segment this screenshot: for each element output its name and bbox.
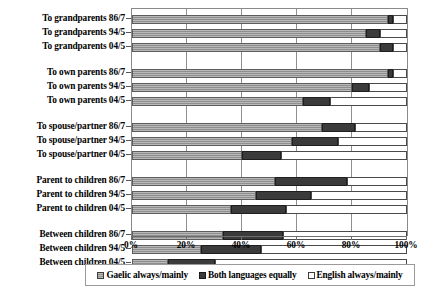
bar-segment-english bbox=[380, 29, 408, 38]
x-tick-label: 60% bbox=[287, 240, 306, 250]
bar-row bbox=[132, 97, 407, 106]
bar-segment-both bbox=[242, 151, 281, 160]
bar-segment-english bbox=[286, 205, 407, 214]
bar-segment-both bbox=[231, 205, 286, 214]
bar-segment-both bbox=[352, 83, 369, 92]
category-tick bbox=[126, 262, 131, 263]
bar-segment-english bbox=[338, 137, 407, 146]
bar-segment-both bbox=[322, 123, 355, 132]
bar-segment-gaelic bbox=[132, 137, 292, 146]
category-label: Parent to children 86/7 bbox=[36, 175, 125, 186]
bar-row bbox=[132, 123, 407, 132]
legend-swatch-english-icon bbox=[308, 272, 315, 279]
x-tick-label: 40% bbox=[232, 240, 251, 250]
bar-segment-english bbox=[347, 177, 408, 186]
category-tick bbox=[126, 46, 131, 47]
legend-label: Gaelic always/mainly bbox=[106, 270, 187, 280]
x-tick-label: 0% bbox=[124, 240, 138, 250]
bar-segment-english bbox=[393, 69, 407, 78]
category-label: To spouse/partner 04/5 bbox=[37, 149, 125, 160]
bar-row bbox=[132, 151, 407, 160]
plot-wrapper: To grandparents 86/7To grandparents 94/5… bbox=[0, 8, 434, 236]
bar-row bbox=[132, 69, 407, 78]
legend-item[interactable]: English always/mainly bbox=[308, 270, 403, 280]
bar-row bbox=[132, 15, 407, 24]
bar-segment-english bbox=[369, 83, 408, 92]
bar-segment-both bbox=[380, 43, 394, 52]
category-tick bbox=[126, 194, 131, 195]
category-tick bbox=[126, 72, 131, 73]
x-tick-label: 20% bbox=[177, 240, 196, 250]
category-label: To grandparents 04/5 bbox=[42, 41, 125, 52]
category-label: Between children 94/5 bbox=[39, 243, 125, 254]
bar-row bbox=[132, 137, 407, 146]
legend-items: Gaelic always/mainlyBoth languages equal… bbox=[86, 265, 414, 285]
legend-label: English always/mainly bbox=[317, 270, 403, 280]
bar-segment-english bbox=[281, 151, 408, 160]
bar-row bbox=[132, 43, 407, 52]
bar-segment-both bbox=[303, 97, 331, 106]
x-tick-label: 80% bbox=[342, 240, 361, 250]
category-label: To spouse/partner 94/5 bbox=[37, 135, 125, 146]
category-tick bbox=[126, 234, 131, 235]
category-label: To spouse/partner 86/7 bbox=[37, 121, 125, 132]
bar-segment-gaelic bbox=[132, 97, 303, 106]
bar-segment-gaelic bbox=[132, 151, 242, 160]
category-tick bbox=[126, 140, 131, 141]
x-axis-line bbox=[131, 236, 407, 237]
x-tick-label: 100% bbox=[394, 240, 417, 250]
bar-segment-both bbox=[366, 29, 380, 38]
category-label: To own parents 86/7 bbox=[47, 67, 125, 78]
bar-segment-gaelic bbox=[132, 29, 366, 38]
bar-row bbox=[132, 191, 407, 200]
category-label: To own parents 04/5 bbox=[47, 95, 125, 106]
category-tick bbox=[126, 180, 131, 181]
legend-swatch-both-icon bbox=[199, 272, 206, 279]
legend-item[interactable]: Gaelic always/mainly bbox=[97, 270, 187, 280]
bar-segment-both bbox=[275, 177, 347, 186]
bar-segment-both bbox=[292, 137, 339, 146]
category-tick bbox=[126, 32, 131, 33]
bar-segment-gaelic bbox=[132, 123, 322, 132]
plot-area bbox=[131, 8, 408, 236]
bar-row bbox=[132, 83, 407, 92]
stacked-bar-chart: To grandparents 86/7To grandparents 94/5… bbox=[0, 0, 434, 305]
category-tick bbox=[126, 208, 131, 209]
category-tick bbox=[126, 18, 131, 19]
category-tick bbox=[126, 86, 131, 87]
legend-label: Both languages equally bbox=[208, 270, 297, 280]
category-label: To grandparents 86/7 bbox=[42, 13, 125, 24]
bar-row bbox=[132, 29, 407, 38]
bar-segment-english bbox=[393, 15, 407, 24]
bar-row bbox=[132, 205, 407, 214]
category-tick bbox=[126, 154, 131, 155]
category-label: To own parents 94/5 bbox=[47, 81, 125, 92]
bar-segment-gaelic bbox=[132, 15, 388, 24]
bar-segment-english bbox=[330, 97, 407, 106]
legend-swatch-gaelic-icon bbox=[97, 272, 104, 279]
bar-segment-gaelic bbox=[132, 43, 380, 52]
category-tick bbox=[126, 126, 131, 127]
bar-segment-gaelic bbox=[132, 69, 388, 78]
bar-segment-english bbox=[311, 191, 407, 200]
legend-item[interactable]: Both languages equally bbox=[199, 270, 297, 280]
bar-segment-english bbox=[261, 245, 407, 254]
bar-segment-english bbox=[355, 123, 407, 132]
category-label: Parent to children 94/5 bbox=[36, 189, 125, 200]
bar-segment-gaelic bbox=[132, 83, 352, 92]
category-label: Parent to children 04/5 bbox=[36, 203, 125, 214]
bar-segment-gaelic bbox=[132, 205, 231, 214]
category-label: Between children 86/7 bbox=[39, 229, 125, 240]
category-axis-labels: To grandparents 86/7To grandparents 94/5… bbox=[0, 8, 128, 234]
bar-row bbox=[132, 177, 407, 186]
category-label: To grandparents 94/5 bbox=[42, 27, 125, 38]
bar-segment-gaelic bbox=[132, 177, 275, 186]
bar-segment-both bbox=[256, 191, 311, 200]
bar-segment-english bbox=[393, 43, 407, 52]
bar-row bbox=[132, 245, 407, 254]
category-tick bbox=[126, 100, 131, 101]
legend: Gaelic always/mainlyBoth languages equal… bbox=[85, 264, 415, 286]
bar-segment-gaelic bbox=[132, 191, 256, 200]
